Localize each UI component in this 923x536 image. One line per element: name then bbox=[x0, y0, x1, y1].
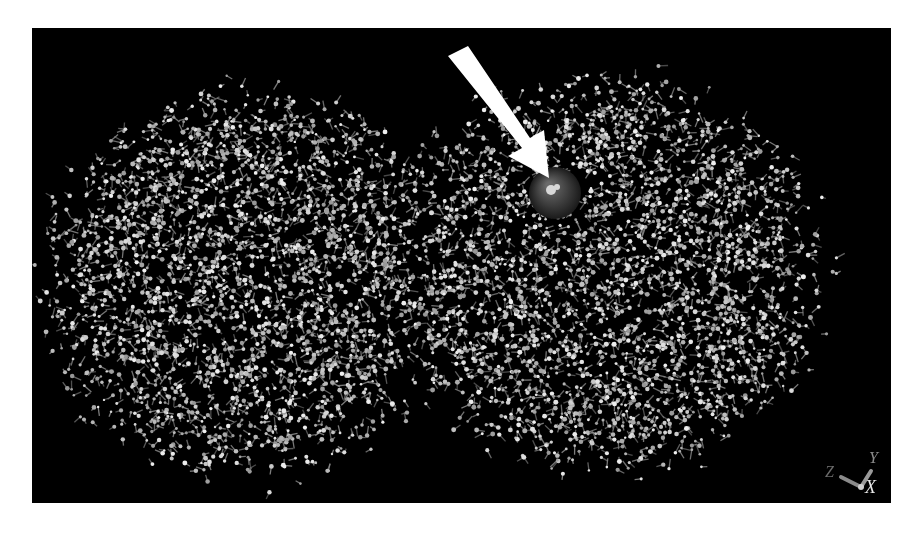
molecule-viewport[interactable]: Z Y X bbox=[32, 28, 891, 503]
axis-triad: Z Y X bbox=[823, 449, 883, 499]
molecule-structure[interactable] bbox=[32, 28, 891, 503]
axis-y-label: Y bbox=[869, 449, 878, 467]
axis-x-label: X bbox=[865, 477, 876, 498]
axis-z-label: Z bbox=[825, 463, 834, 481]
